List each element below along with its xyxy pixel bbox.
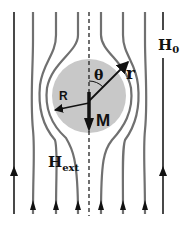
arrow-up-icon [159, 166, 167, 176]
arrow-up-icon [120, 200, 126, 210]
arrow-up-icon [75, 200, 81, 210]
h0-label: H0 [158, 36, 179, 55]
hext-label: Hext [48, 153, 80, 173]
arrow-up-icon [10, 166, 18, 176]
arrow-up-icon [98, 200, 104, 210]
arrow-up-icon [142, 200, 148, 210]
r-vector-label: r [126, 63, 136, 83]
magnetization-label: M [96, 111, 110, 130]
arrow-up-icon [30, 200, 36, 210]
theta-label: θ [94, 67, 103, 83]
magnetized-sphere-diagram: H0 Hext M R r θ [0, 0, 191, 229]
radius-label: R [59, 89, 68, 103]
arrow-up-icon [53, 200, 59, 210]
